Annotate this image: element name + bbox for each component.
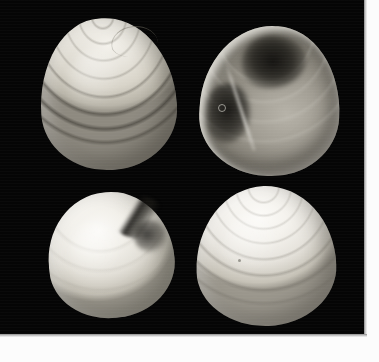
shell-body-top-right (200, 26, 340, 176)
surface-speck (238, 259, 241, 262)
shell-specimen-top-right (200, 26, 340, 176)
specular-highlight (67, 51, 121, 109)
photo-black-field (0, 0, 364, 334)
specular-highlight (66, 222, 124, 277)
paper-margin-bottom (0, 337, 379, 362)
specular-highlight (218, 214, 280, 273)
shell-specimen-top-left (40, 18, 176, 170)
shell-body-top-left (40, 18, 176, 170)
specimen-photo-plate (0, 0, 379, 362)
shell-specimen-bottom-right (196, 186, 336, 326)
shell-specimen-bottom-left (48, 192, 174, 318)
shell-body-bottom-left (48, 192, 174, 318)
paper-margin-right (367, 0, 379, 337)
shell-body-bottom-right (196, 186, 336, 326)
valve-margin-rim (196, 22, 344, 179)
